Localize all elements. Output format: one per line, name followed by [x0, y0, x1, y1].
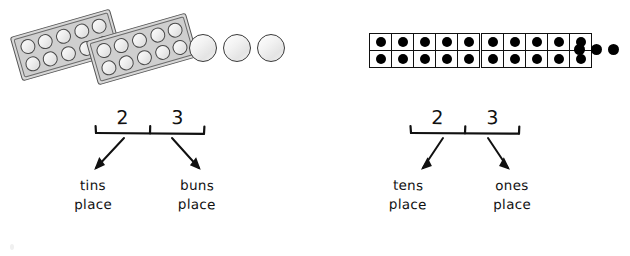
- place-value-diagram-tins: 2 3: [0, 100, 315, 256]
- loose-bun-icon: [189, 34, 217, 62]
- bun-icon: [94, 41, 113, 60]
- bun-icon: [100, 59, 119, 78]
- ten-frame-cell: [414, 34, 435, 50]
- dot-icon: [420, 37, 430, 47]
- tens-place-label: tens place: [363, 175, 454, 215]
- bun-icon: [135, 49, 154, 68]
- arrow-head-ones: [501, 160, 509, 169]
- dot-icon: [376, 37, 386, 47]
- dot-icon: [510, 54, 520, 64]
- dot-icon: [554, 37, 564, 47]
- bun-icon: [166, 21, 185, 40]
- ten-frame-cell: [548, 51, 569, 67]
- ten-frame-cell: [458, 51, 479, 67]
- loose-dot-icon: [574, 44, 585, 55]
- ten-frame-cell: [504, 34, 525, 50]
- loose-bun-icon: [257, 34, 285, 62]
- ones-place-label-line1: ones: [467, 176, 557, 196]
- ten-frame-cell: [370, 51, 391, 67]
- bun-icon: [18, 37, 37, 56]
- dot-icon: [464, 54, 474, 64]
- bracket-tick-left: [411, 126, 412, 133]
- ten-frame-cell: [526, 51, 547, 67]
- bun-icon: [72, 22, 91, 41]
- dot-icon: [442, 37, 452, 47]
- bun-icon: [90, 17, 109, 36]
- ones-place-label: buns place: [152, 175, 243, 215]
- dot-icon: [510, 37, 520, 47]
- loose-bun-icon: [223, 34, 251, 62]
- bun-icon: [153, 43, 172, 62]
- dot-icon: [488, 54, 498, 64]
- bun-icon: [171, 38, 190, 57]
- ten-frame-cell: [370, 34, 391, 50]
- ten-frame-cell: [526, 34, 547, 50]
- ones-place-label: ones place: [467, 176, 557, 215]
- ones-place-label-line2: place: [152, 194, 242, 215]
- ten-frame-cell: [392, 34, 413, 50]
- bun-icon: [130, 31, 149, 50]
- ones-place-label-line1: buns: [152, 175, 242, 196]
- arrow-head-tens: [423, 160, 431, 169]
- worksheet-canvas: 2 3: [0, 0, 630, 256]
- tens-place-label-line2: place: [48, 195, 138, 215]
- dot-icon: [464, 37, 474, 47]
- paper-speck: [10, 244, 14, 250]
- tens-place-label: tins place: [48, 176, 138, 215]
- bun-icon: [148, 26, 167, 45]
- place-value-diagram-tens-ones: 2 3 tens place: [315, 100, 630, 256]
- dot-icon: [532, 54, 542, 64]
- loose-dot-icon: [608, 44, 619, 55]
- ones-place-label-line2: place: [467, 195, 557, 215]
- manipulative-area-tins: [0, 0, 315, 100]
- bun-icon: [117, 54, 136, 73]
- ten-frame-cell: [482, 51, 503, 67]
- ten-frame-cell: [482, 34, 503, 50]
- ten-frame-cell: [392, 51, 413, 67]
- dot-icon: [420, 54, 430, 64]
- ten-frame-cell: [504, 51, 525, 67]
- tens-place-label-line2: place: [363, 194, 453, 215]
- bun-icon: [24, 55, 43, 74]
- bun-icon: [59, 45, 78, 64]
- panel-concrete-tins-buns: 2 3: [0, 0, 315, 256]
- loose-dot-icon: [591, 44, 602, 55]
- ten-frame-cell: [414, 51, 435, 67]
- ten-frame-cell: [458, 34, 479, 50]
- dot-icon: [398, 54, 408, 64]
- bun-icon: [41, 50, 60, 69]
- ten-frame-cell: [436, 34, 457, 50]
- dot-icon: [532, 37, 542, 47]
- dot-icon: [576, 54, 586, 64]
- tens-place-label-line1: tens: [363, 175, 453, 196]
- ten-frame: [369, 33, 480, 68]
- ten-frame-cell: [436, 51, 457, 67]
- bun-icon: [36, 32, 55, 51]
- panel-abstract-tens-ones: 2 3 tens place: [315, 0, 630, 256]
- tens-place-label-line1: tins: [48, 176, 138, 196]
- dot-icon: [398, 37, 408, 47]
- ten-frame-cell: [548, 34, 569, 50]
- dot-icon: [376, 54, 386, 64]
- bun-icon: [54, 27, 73, 46]
- manipulative-area-tenframes: [315, 0, 630, 100]
- dot-icon: [442, 54, 452, 64]
- dot-icon: [554, 54, 564, 64]
- bun-icon: [112, 36, 131, 55]
- dot-icon: [488, 37, 498, 47]
